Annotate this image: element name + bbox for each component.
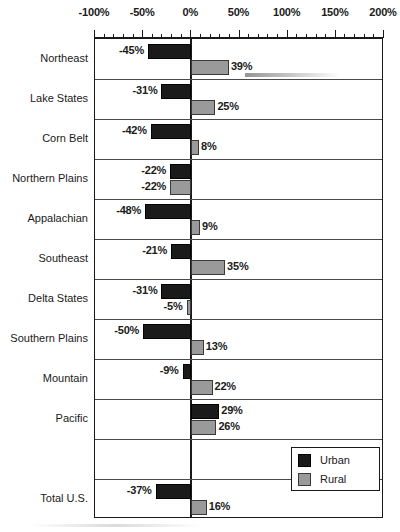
bar-urban (171, 244, 191, 259)
bar-value-label: -21% (142, 244, 167, 256)
legend-label-rural: Rural (320, 473, 346, 485)
bar-value-label: 35% (227, 260, 248, 272)
bar-rural (191, 60, 229, 75)
bar-rural (170, 180, 191, 195)
bar-value-label: 16% (209, 500, 230, 512)
legend-swatch-urban-icon (298, 454, 311, 467)
category-label: Northeast (40, 52, 88, 64)
bar-value-label: -22% (141, 180, 166, 192)
x-axis-tick-labels: -100%-50%0%50%100%150%200% (0, 6, 400, 22)
bar-urban (161, 84, 191, 99)
bar-value-label: -9% (160, 364, 179, 376)
row-separator (95, 439, 382, 440)
legend-swatch-rural-icon (298, 473, 311, 486)
category-label: Appalachian (27, 212, 88, 224)
row-separator (95, 359, 382, 360)
bar-value-label: -42% (122, 124, 147, 136)
bar-rural (191, 260, 225, 275)
x-axis-major-tick (383, 30, 384, 38)
x-axis-major-tick (335, 30, 336, 38)
bar-value-label: -45% (119, 44, 144, 56)
chart-legend: Urban Rural (291, 447, 380, 491)
row-separator (95, 199, 382, 200)
bar-value-label: -50% (114, 324, 139, 336)
bar-value-label: 25% (217, 100, 238, 112)
bar-value-label: 13% (206, 340, 227, 352)
bar-rural (187, 300, 192, 315)
bar-value-label: 8% (201, 140, 217, 152)
bar-rural (191, 220, 200, 235)
row-separator (95, 79, 382, 80)
bar-value-label: 26% (218, 420, 239, 432)
bar-urban (148, 44, 191, 59)
bar-rural (191, 420, 216, 435)
bar-value-label: 39% (231, 60, 252, 72)
x-axis-tick-label: -50% (130, 6, 155, 18)
bar-urban (183, 364, 192, 379)
bar-urban (151, 124, 191, 139)
x-axis-major-tick (190, 30, 191, 38)
bar-urban (145, 204, 191, 219)
x-axis-major-tick (94, 30, 95, 38)
x-axis-ruler (94, 30, 383, 38)
category-label: Total U.S. (40, 492, 88, 504)
row-separator (95, 119, 382, 120)
scan-artifact-bottom (30, 524, 200, 527)
bar-value-label: -22% (141, 164, 166, 176)
bar-value-label: -31% (133, 84, 158, 96)
legend-label-urban: Urban (320, 454, 350, 466)
bar-value-label: 29% (221, 404, 242, 416)
legend-entry-rural: Rural (298, 470, 346, 488)
category-label: Lake States (30, 92, 88, 104)
category-label: Pacific (56, 412, 88, 424)
bar-rural (191, 140, 199, 155)
bar-value-label: -37% (127, 484, 152, 496)
x-axis-tick-label: 150% (321, 6, 348, 18)
legend-entry-urban: Urban (298, 451, 350, 469)
bar-chart: -100%-50%0%50%100%150%200% Urban Rural N… (0, 0, 400, 532)
x-axis-tick-label: 0% (183, 6, 199, 18)
row-separator (95, 279, 382, 280)
bar-urban (170, 164, 191, 179)
row-separator (95, 319, 382, 320)
category-label: Southeast (38, 252, 88, 264)
x-axis-tick-label: 100% (273, 6, 300, 18)
category-label: Mountain (43, 372, 88, 384)
bar-value-label: -31% (133, 284, 158, 296)
bar-urban (143, 324, 191, 339)
bar-urban (191, 404, 219, 419)
x-axis-tick-label: -100% (79, 6, 110, 18)
x-axis-tick-label: 50% (228, 6, 249, 18)
bar-rural (191, 500, 206, 515)
row-separator (95, 399, 382, 400)
x-axis-major-tick (239, 30, 240, 38)
category-label: Delta States (28, 292, 88, 304)
x-axis-tick-label: 200% (369, 6, 396, 18)
bar-value-label: -5% (164, 300, 183, 312)
bar-urban (161, 284, 191, 299)
category-label: Corn Belt (42, 132, 88, 144)
bar-rural (191, 380, 212, 395)
row-separator (95, 239, 382, 240)
bar-rural (191, 340, 204, 355)
row-separator (95, 159, 382, 160)
x-axis-major-tick (287, 30, 288, 38)
bar-urban (156, 484, 192, 499)
bar-value-label: 22% (215, 380, 236, 392)
x-axis-major-tick (142, 30, 143, 38)
bar-value-label: -48% (116, 204, 141, 216)
category-label: Southern Plains (10, 332, 88, 344)
bar-rural (191, 100, 215, 115)
bar-value-label: 9% (202, 220, 218, 232)
category-label: Northern Plains (12, 172, 88, 184)
